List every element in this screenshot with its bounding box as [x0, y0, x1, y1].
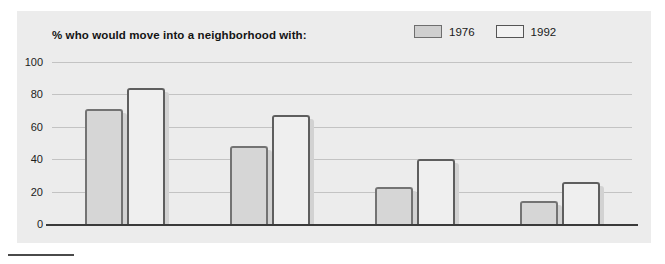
bar-1976-2: [230, 146, 268, 224]
bar-1976-4: [520, 201, 558, 224]
bar-1992-1: [127, 88, 165, 224]
y-axis-tick-label: 20: [31, 186, 43, 198]
legend-label-1976: 1976: [449, 26, 475, 38]
chart-figure: % who would move into a neighborhood wit…: [0, 0, 665, 264]
y-axis-tick-label: 60: [31, 121, 43, 133]
y-axis-tick-label: 100: [25, 56, 43, 68]
chart-title: % who would move into a neighborhood wit…: [52, 29, 307, 41]
bar-group: [487, 62, 632, 224]
legend-swatch-1992-icon: [496, 25, 524, 38]
footer-divider: [8, 254, 74, 256]
legend-label-1992: 1992: [531, 26, 557, 38]
legend-item-1976: 1976: [414, 25, 475, 38]
x-axis-baseline: [46, 224, 638, 226]
bar-1992-3: [417, 159, 455, 224]
chart-legend: 1976 1992: [414, 25, 556, 38]
y-axis-tick-label: 80: [31, 88, 43, 100]
bar-1976-1: [85, 109, 123, 224]
bar-group: [342, 62, 487, 224]
bar-group: [197, 62, 342, 224]
bar-1992-2: [272, 115, 310, 224]
bar-1976-3: [375, 187, 413, 224]
plot-area: 0204060801001 black household in 153 bla…: [52, 62, 632, 224]
legend-item-1992: 1992: [496, 25, 557, 38]
y-axis-tick-label: 0: [37, 218, 43, 230]
y-axis-tick-label: 40: [31, 153, 43, 165]
bar-1992-4: [562, 182, 600, 224]
bar-group: [52, 62, 197, 224]
legend-swatch-1976-icon: [414, 25, 442, 38]
